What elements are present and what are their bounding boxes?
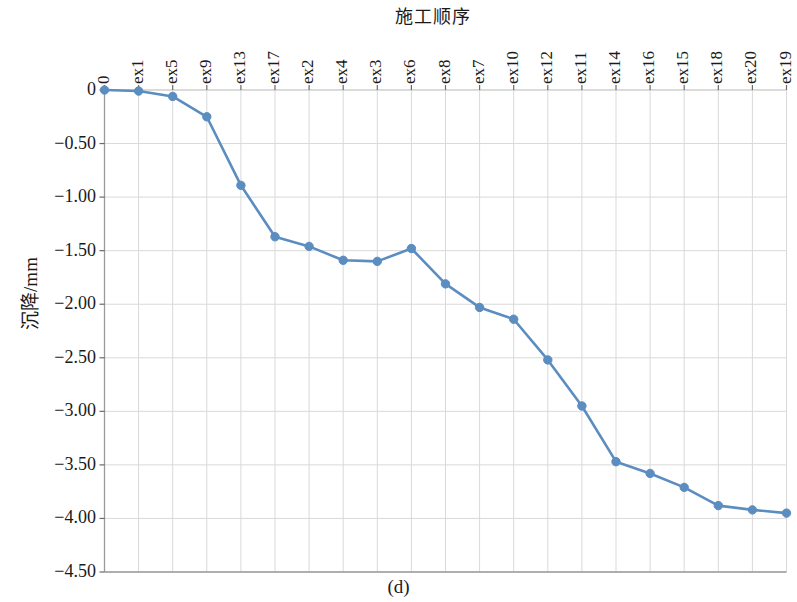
gridlines: [105, 90, 787, 572]
data-point-marker: [544, 356, 552, 364]
data-point-marker: [646, 469, 654, 477]
data-point-marker: [203, 113, 211, 121]
axis-lines: [100, 85, 787, 572]
data-point-marker: [612, 457, 620, 465]
data-point-marker: [373, 257, 381, 265]
data-point-marker: [680, 483, 688, 491]
data-point-marker: [407, 244, 415, 252]
data-point-marker: [714, 501, 722, 509]
data-point-marker: [339, 256, 347, 264]
data-point-marker: [748, 506, 756, 514]
data-point-marker: [134, 87, 142, 95]
data-point-marker: [578, 402, 586, 410]
data-point-marker: [271, 233, 279, 241]
data-point-marker: [169, 92, 177, 100]
data-point-marker: [782, 509, 790, 517]
figure-caption: (d): [0, 576, 797, 598]
data-point-marker: [305, 242, 313, 250]
data-point-marker: [441, 280, 449, 288]
data-point-marker: [100, 86, 108, 94]
data-point-marker: [475, 303, 483, 311]
settlement-line-chart-figure: 施工顺序 0ex1ex5ex9ex13ex17ex2ex4ex3ex6ex8ex…: [0, 0, 797, 602]
plot-area: [0, 0, 797, 602]
data-point-marker: [237, 181, 245, 189]
data-point-marker: [510, 315, 518, 323]
